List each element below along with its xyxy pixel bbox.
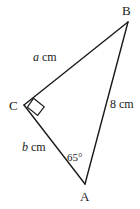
side-label-b-cm: b cm bbox=[22, 141, 46, 153]
vertex-label-b: B bbox=[122, 4, 131, 17]
vertex-label-a: A bbox=[80, 190, 89, 203]
angle-label-65-degrees: 65° bbox=[67, 152, 82, 163]
vertex-label-c: C bbox=[9, 99, 18, 112]
side-label-b-variable: b bbox=[22, 140, 28, 154]
side-label-b-unit: cm bbox=[31, 140, 46, 154]
side-label-8-cm: 8 cm bbox=[110, 98, 134, 110]
side-label-a-variable: a bbox=[33, 50, 39, 64]
side-label-a-cm: a cm bbox=[33, 51, 57, 63]
side-label-a-unit: cm bbox=[42, 50, 57, 64]
triangle-figure: B C A a cm b cm 8 cm 65° bbox=[0, 0, 140, 209]
